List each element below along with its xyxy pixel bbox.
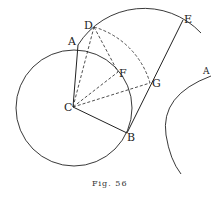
label-b: B [127, 131, 135, 144]
arc-ade [78, 8, 201, 45]
label-e: E [184, 13, 192, 26]
label-f: F [119, 67, 127, 80]
label-right-a: A [202, 66, 210, 76]
segment-cb [73, 107, 127, 133]
segment-cg [73, 83, 150, 107]
label-c: C [64, 101, 72, 114]
segment-cf [73, 72, 118, 107]
geometry-figure: D A F G C B E A Fig. 56 [0, 0, 223, 198]
segment-df [94, 27, 118, 72]
right-arc [165, 76, 211, 174]
figure-caption: Fig. 56 [92, 179, 128, 188]
label-d: D [84, 19, 93, 32]
segment-ca [73, 45, 78, 107]
label-g: G [152, 77, 161, 90]
label-a: A [67, 35, 77, 48]
